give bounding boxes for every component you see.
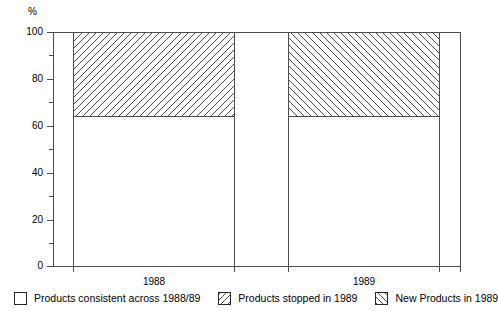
y-tick-label-60: 60 (9, 121, 43, 131)
bar-1988-segment-products-stopped (73, 32, 235, 117)
legend-label-products-consistent: Products consistent across 1988/89 (34, 292, 200, 304)
x-tick-1988-right (234, 267, 235, 272)
y-tick-label-80: 80 (9, 74, 43, 84)
y-tick-label-40: 40 (9, 168, 43, 178)
legend-item-new-products: New Products in 1989 (375, 292, 498, 305)
bar-1988-segment-products-consistent (73, 116, 235, 267)
x-tick-right-edge (460, 267, 461, 272)
y-axis-unit-label: % (28, 6, 37, 17)
y-tick-minor-90 (49, 55, 53, 56)
chart-legend: Products consistent across 1988/89 Produ… (14, 290, 469, 306)
y-tick-label-0: 0 (9, 261, 43, 271)
legend-item-products-stopped: Products stopped in 1989 (218, 292, 357, 305)
plot-area: 100 80 60 40 20 0 (53, 32, 461, 267)
legend-swatch-hatch-backslash-icon (218, 292, 231, 305)
legend-label-products-stopped: Products stopped in 1989 (238, 292, 357, 304)
y-tick-minor-10 (49, 243, 53, 244)
y-tick-40 (47, 173, 53, 174)
y-tick-minor-30 (49, 196, 53, 197)
column-separator-right-edge (460, 32, 461, 267)
x-tick-left-gutter (73, 267, 74, 272)
y-tick-100 (47, 32, 53, 33)
y-axis-line (53, 32, 54, 267)
x-tick-1989-right (439, 267, 440, 272)
legend-swatch-hatch-forwardslash-icon (375, 292, 388, 305)
x-tick-label-1989: 1989 (304, 276, 424, 287)
y-tick-60 (47, 126, 53, 127)
y-tick-minor-50 (49, 149, 53, 150)
legend-item-products-consistent: Products consistent across 1988/89 (14, 292, 200, 305)
y-tick-minor-70 (49, 102, 53, 103)
y-tick-0 (47, 266, 53, 267)
y-tick-20 (47, 220, 53, 221)
legend-swatch-plain-icon (14, 292, 27, 305)
y-tick-label-100: 100 (9, 27, 43, 37)
y-tick-label-20: 20 (9, 215, 43, 225)
x-tick-label-1988: 1988 (94, 276, 214, 287)
x-tick-mid-gutter (288, 267, 289, 272)
legend-label-new-products: New Products in 1989 (395, 292, 498, 304)
bar-1989-segment-products-consistent (288, 116, 440, 267)
bar-1989-segment-new-products (288, 32, 440, 117)
y-tick-80 (47, 79, 53, 80)
